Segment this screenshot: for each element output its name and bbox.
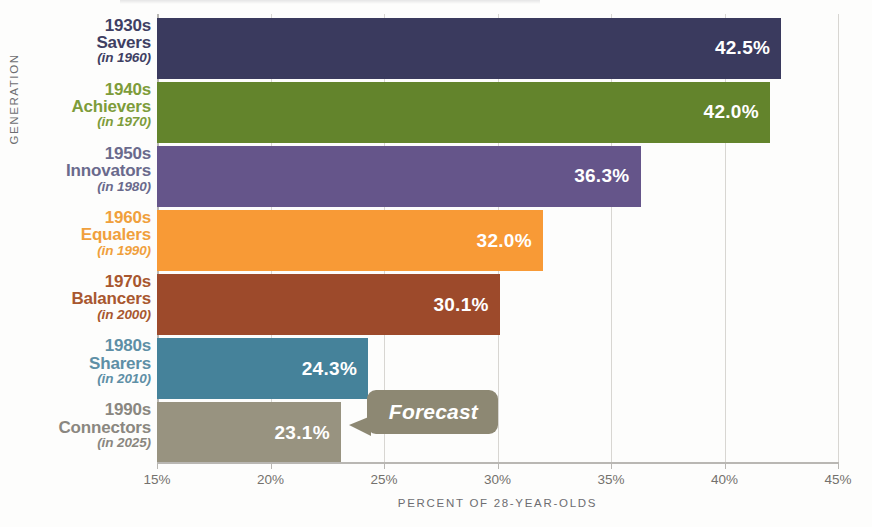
bar[interactable]: 23.1%	[157, 402, 341, 463]
bar[interactable]: 42.5%	[157, 18, 781, 79]
x-axis-tick-label: 35%	[597, 472, 624, 487]
bar-value-label: 42.0%	[704, 101, 759, 123]
category-year: (in 1980)	[0, 180, 151, 194]
bar[interactable]: 42.0%	[157, 82, 770, 143]
category-name: Connectors	[0, 419, 151, 436]
x-axis-tick-label: 40%	[711, 472, 738, 487]
x-axis-tick	[838, 462, 839, 469]
category-label: 1950sInnovators(in 1980)	[0, 145, 151, 193]
gridline	[838, 14, 839, 463]
bar[interactable]: 24.3%	[157, 338, 368, 399]
x-axis-tick	[725, 462, 726, 469]
x-axis-tick-label: 30%	[484, 472, 511, 487]
bar-value-label: 23.1%	[274, 422, 329, 444]
x-axis-tick	[384, 462, 385, 469]
category-label: 1960sEqualers(in 1990)	[0, 209, 151, 257]
bar-value-label: 32.0%	[477, 230, 532, 252]
category-name: Achievers	[0, 98, 151, 115]
x-axis-tick-label: 25%	[370, 472, 397, 487]
category-decade: 1970s	[0, 273, 151, 290]
category-year: (in 1990)	[0, 244, 151, 258]
category-name: Balancers	[0, 290, 151, 307]
cropped-title-sliver	[120, 0, 540, 4]
category-label: 1940sAchievers(in 1970)	[0, 81, 151, 129]
category-name: Savers	[0, 34, 151, 51]
category-year: (in 2010)	[0, 372, 151, 386]
x-axis-tick-label: 15%	[143, 472, 170, 487]
bar-value-label: 30.1%	[433, 294, 488, 316]
chart-page: GENERATION 42.5%42.0%36.3%32.0%30.1%24.3…	[0, 0, 872, 527]
x-axis-tick-label: 20%	[257, 472, 284, 487]
category-label: 1930sSavers(in 1960)	[0, 17, 151, 65]
bar-value-label: 36.3%	[574, 165, 629, 187]
category-decade: 1930s	[0, 17, 151, 34]
x-axis-tick	[611, 462, 612, 469]
forecast-callout-tail-icon	[349, 416, 371, 436]
bar[interactable]: 30.1%	[157, 274, 500, 335]
x-axis-tick	[157, 462, 158, 469]
x-axis-tick-label: 45%	[824, 472, 851, 487]
category-label: 1970sBalancers(in 2000)	[0, 273, 151, 321]
x-axis-tick	[498, 462, 499, 469]
bar[interactable]: 36.3%	[157, 146, 641, 207]
bar[interactable]: 32.0%	[157, 210, 543, 271]
category-name: Sharers	[0, 355, 151, 372]
category-year: (in 1970)	[0, 115, 151, 129]
category-year: (in 1960)	[0, 51, 151, 65]
category-decade: 1940s	[0, 81, 151, 98]
category-decade: 1950s	[0, 145, 151, 162]
forecast-callout: Forecast	[367, 390, 498, 434]
bar-value-label: 42.5%	[715, 37, 770, 59]
category-year: (in 2000)	[0, 308, 151, 322]
category-label: 1990sConnectors(in 2025)	[0, 401, 151, 449]
category-name: Equalers	[0, 226, 151, 243]
category-decade: 1980s	[0, 337, 151, 354]
bar-value-label: 24.3%	[302, 358, 357, 380]
category-label: 1980sSharers(in 2010)	[0, 337, 151, 385]
x-axis-tick	[271, 462, 272, 469]
category-name: Innovators	[0, 162, 151, 179]
category-year: (in 2025)	[0, 436, 151, 450]
category-decade: 1960s	[0, 209, 151, 226]
category-decade: 1990s	[0, 401, 151, 418]
x-axis-title: PERCENT OF 28-YEAR-OLDS	[157, 497, 838, 509]
